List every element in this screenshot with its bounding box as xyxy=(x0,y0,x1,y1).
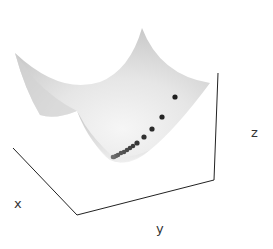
trajectory-point xyxy=(141,134,146,139)
trajectory-point xyxy=(134,140,139,145)
z-axis-label: z xyxy=(251,126,258,139)
x-axis-label: x xyxy=(14,197,22,210)
y-axis-line xyxy=(77,180,214,215)
y-axis-label: y xyxy=(156,222,164,235)
trajectory-point xyxy=(111,155,116,160)
trajectory-point xyxy=(159,114,164,119)
z-axis-line xyxy=(214,73,218,180)
surface-plot-3d xyxy=(0,0,273,249)
trajectory-point xyxy=(172,94,177,99)
trajectory-point xyxy=(149,126,154,131)
x-axis-line xyxy=(13,148,77,215)
